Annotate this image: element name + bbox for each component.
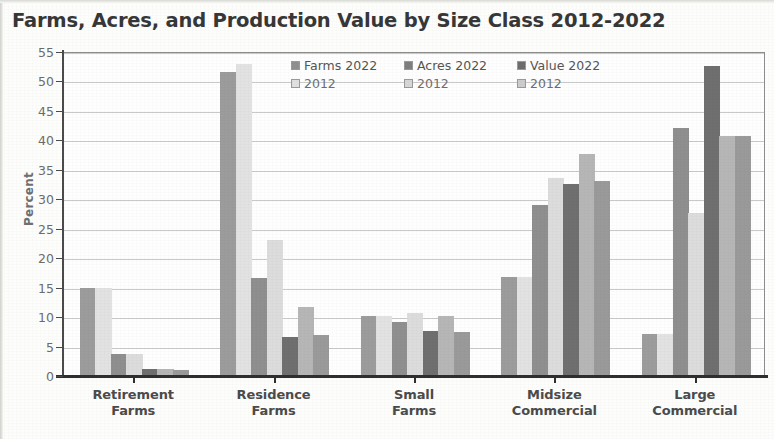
y-axis-tick: [56, 229, 63, 230]
bar: [376, 316, 392, 375]
bar: [517, 277, 533, 375]
legend-swatch-icon: [291, 61, 300, 70]
legend-label: Farms 2022: [304, 58, 377, 73]
y-axis-title: Percent: [22, 154, 36, 244]
legend-item-acres-2012[interactable]: 2012: [404, 76, 517, 91]
x-axis-tick: [414, 375, 416, 383]
x-axis-line: [56, 375, 768, 378]
bar: [361, 316, 377, 375]
bar: [735, 136, 751, 375]
legend-swatch-icon: [517, 61, 526, 70]
bar: [688, 213, 704, 375]
legend-row-2012: 2012 2012 2012: [291, 74, 631, 92]
bar: [501, 277, 517, 375]
y-axis-tick: [56, 347, 63, 348]
y-axis-tick: [56, 258, 63, 259]
x-axis-tick-label-line: Commercial: [484, 403, 624, 419]
x-axis-tick-label-line: Retirement: [63, 387, 203, 403]
y-axis-tick: [56, 52, 63, 53]
plot-area: [63, 52, 765, 376]
bar: [438, 316, 454, 375]
x-axis-tick-label-line: Farms: [63, 403, 203, 419]
y-axis-tick: [56, 140, 63, 141]
x-axis-tick-label-line: Small: [344, 387, 484, 403]
bar: [594, 181, 610, 375]
bar: [532, 205, 548, 375]
x-axis-tick-label-line: Farms: [344, 403, 484, 419]
bar: [111, 354, 127, 375]
chart-legend: Farms 2022 Acres 2022 Value 2022 2012 20…: [291, 56, 631, 92]
page-edge-top: [0, 0, 774, 3]
y-axis-tick: [56, 288, 63, 289]
bar: [236, 64, 252, 375]
bar: [126, 354, 142, 375]
bar: [407, 313, 423, 375]
bar: [267, 240, 283, 375]
legend-label: Value 2022: [530, 58, 600, 73]
legend-item-farms-2012[interactable]: 2012: [291, 76, 404, 91]
legend-item-value-2022[interactable]: Value 2022: [517, 58, 630, 73]
bar-group: [485, 53, 625, 375]
bar: [579, 154, 595, 375]
y-axis-tick-label: 15: [8, 281, 54, 296]
bar: [642, 334, 658, 375]
legend-swatch-icon: [404, 79, 413, 88]
y-axis-tick-label: 5: [8, 340, 54, 355]
x-axis-tick: [274, 375, 276, 383]
chart-plot-wrapper: 0510152025303540455055 Percent Farms 202…: [0, 0, 774, 439]
bar: [563, 184, 579, 375]
y-axis-tick: [56, 199, 63, 200]
bar: [704, 66, 720, 375]
x-axis-tick-label: RetirementFarms: [63, 387, 203, 419]
legend-item-acres-2022[interactable]: Acres 2022: [404, 58, 517, 73]
y-axis-tick-label: 10: [8, 310, 54, 325]
legend-label: 2012: [417, 76, 449, 91]
x-axis-tick-label-line: Midsize: [484, 387, 624, 403]
bar: [251, 278, 267, 375]
y-axis-tick: [56, 81, 63, 82]
y-axis-tick-label: 45: [8, 104, 54, 119]
bar-group: [64, 53, 204, 375]
x-axis-tick: [133, 375, 135, 383]
bar-group: [204, 53, 344, 375]
page-edge-left: [0, 0, 3, 439]
x-axis-tick-label: LargeCommercial: [625, 387, 765, 419]
x-axis-tick-label-line: Large: [625, 387, 765, 403]
x-axis-tick-label: MidsizeCommercial: [484, 387, 624, 419]
bar: [313, 335, 329, 375]
bar: [719, 136, 735, 375]
bar-group: [345, 53, 485, 375]
y-axis-tick-label: 40: [8, 133, 54, 148]
x-axis-tick-label-line: Farms: [203, 403, 343, 419]
bar: [548, 178, 564, 375]
bar: [80, 288, 96, 375]
bar: [298, 307, 314, 375]
legend-label: 2012: [304, 76, 336, 91]
x-axis-tick: [695, 375, 697, 383]
y-axis-tick: [56, 317, 63, 318]
legend-item-farms-2022[interactable]: Farms 2022: [291, 58, 404, 73]
x-axis-tick-label-line: Residence: [203, 387, 343, 403]
y-axis-tick-label: 20: [8, 251, 54, 266]
legend-item-value-2012[interactable]: 2012: [517, 76, 630, 91]
bar: [220, 72, 236, 375]
x-axis-tick-label: ResidenceFarms: [203, 387, 343, 419]
bar: [95, 288, 111, 375]
legend-swatch-icon: [517, 79, 526, 88]
y-axis-tick-label: 50: [8, 74, 54, 89]
bar: [392, 322, 408, 375]
bar-group: [626, 53, 766, 375]
bar: [454, 332, 470, 375]
legend-swatch-icon: [404, 61, 413, 70]
legend-label: 2012: [530, 76, 562, 91]
bar: [282, 337, 298, 375]
y-axis-tick: [56, 376, 63, 377]
y-axis-tick: [56, 111, 63, 112]
y-axis-tick-label: 55: [8, 45, 54, 60]
bar: [423, 331, 439, 375]
x-axis-tick-label-line: Commercial: [625, 403, 765, 419]
y-axis-tick: [56, 170, 63, 171]
x-axis-tick: [554, 375, 556, 383]
legend-row-2022: Farms 2022 Acres 2022 Value 2022: [291, 56, 631, 74]
bar: [673, 128, 689, 375]
